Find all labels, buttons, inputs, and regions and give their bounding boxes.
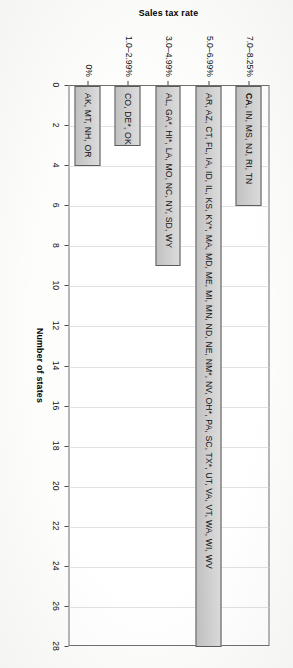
gridline [69, 527, 268, 528]
x-axis-tick [64, 526, 68, 527]
x-axis-tick [64, 366, 68, 367]
bar-value-label: AR, AZ, CT, FL, IA, ID, IL, KS, KY*, MA,… [203, 93, 212, 569]
x-axis-tick-label: 12 [50, 321, 60, 331]
x-axis-tick-label: 22 [50, 521, 60, 531]
bar: CA, IN, MS, NJ, RI, TN [235, 86, 261, 206]
gridline [69, 607, 268, 608]
x-axis-tick [64, 165, 68, 166]
x-axis-tick [64, 566, 68, 567]
y-axis-tick-label: 3.0–4.99% [164, 20, 174, 77]
x-axis-tick-label: 16 [50, 401, 60, 411]
x-axis-tick [64, 406, 68, 407]
x-axis-tick [64, 85, 68, 86]
gridline [69, 407, 268, 408]
x-axis-tick-label: 2 [50, 123, 60, 128]
gridline [69, 367, 268, 368]
y-axis-tick-label: 1.0–2.99% [123, 20, 133, 77]
y-axis-tick-label: 7.0–8.25% [244, 20, 254, 77]
x-axis-tick [64, 245, 68, 246]
x-axis-tick [64, 606, 68, 607]
y-axis-tick-label: 0% [83, 20, 93, 77]
y-axis-title-wrap: Sales tax rate [68, 6, 269, 20]
x-axis-tick [64, 125, 68, 126]
x-axis-tick-label: 0 [50, 83, 60, 88]
bar-value-label: AK, MT, NH, OR [83, 93, 92, 158]
bar: CO, DE*, OK [114, 86, 140, 146]
x-axis-tick [64, 325, 68, 326]
gridline [69, 326, 268, 327]
bar: AK, MT, NH, OR [74, 86, 100, 166]
y-axis-tick-label: 5.0–6.99% [204, 20, 214, 77]
x-axis-tick-label: 8 [50, 243, 60, 248]
x-axis-tick [64, 446, 68, 447]
bar-value-label: AL, GA*, HI*, LA, MO, NC, NY, SD, WY [163, 93, 172, 248]
x-axis-tick [64, 205, 68, 206]
bar: AR, AZ, CT, FL, IA, ID, IL, KS, KY*, MA,… [195, 86, 221, 647]
rotated-figure: Sales tax rate 7.0–8.25%5.0–6.99%3.0–4.9… [0, 0, 293, 668]
x-axis-tick-label: 28 [50, 641, 60, 651]
x-axis-tick-label: 26 [50, 601, 60, 611]
x-axis-tick-label: 4 [50, 163, 60, 168]
y-axis-title: Sales tax rate [139, 8, 199, 18]
x-axis-tick-label: 14 [50, 361, 60, 371]
x-axis-tick-label: 20 [50, 481, 60, 491]
x-axis-tick [64, 486, 68, 487]
gridline [69, 567, 268, 568]
bar-value-label: CA, IN, MS, NJ, RI, TN [244, 93, 253, 184]
gridline [69, 447, 268, 448]
x-axis-tick-label: 24 [50, 561, 60, 571]
gridline [69, 487, 268, 488]
bar: AL, GA*, HI*, LA, MO, NC, NY, SD, WY [155, 86, 181, 266]
scanned-page: Sales tax rate 7.0–8.25%5.0–6.99%3.0–4.9… [0, 0, 293, 668]
plot-area: CA, IN, MS, NJ, RI, TNAR, AZ, CT, FL, IA… [68, 85, 269, 646]
x-axis-tick-label: 6 [50, 203, 60, 208]
x-axis-tick-label: 10 [50, 281, 60, 291]
gridline [69, 286, 268, 287]
bar-value-label: CO, DE*, OK [123, 93, 132, 145]
x-axis-tick [64, 285, 68, 286]
x-axis-tick-label: 18 [50, 441, 60, 451]
x-axis-title: Number of states [34, 328, 44, 403]
x-axis-tick [64, 646, 68, 647]
bar-chart: Sales tax rate 7.0–8.25%5.0–6.99%3.0–4.9… [0, 0, 293, 668]
